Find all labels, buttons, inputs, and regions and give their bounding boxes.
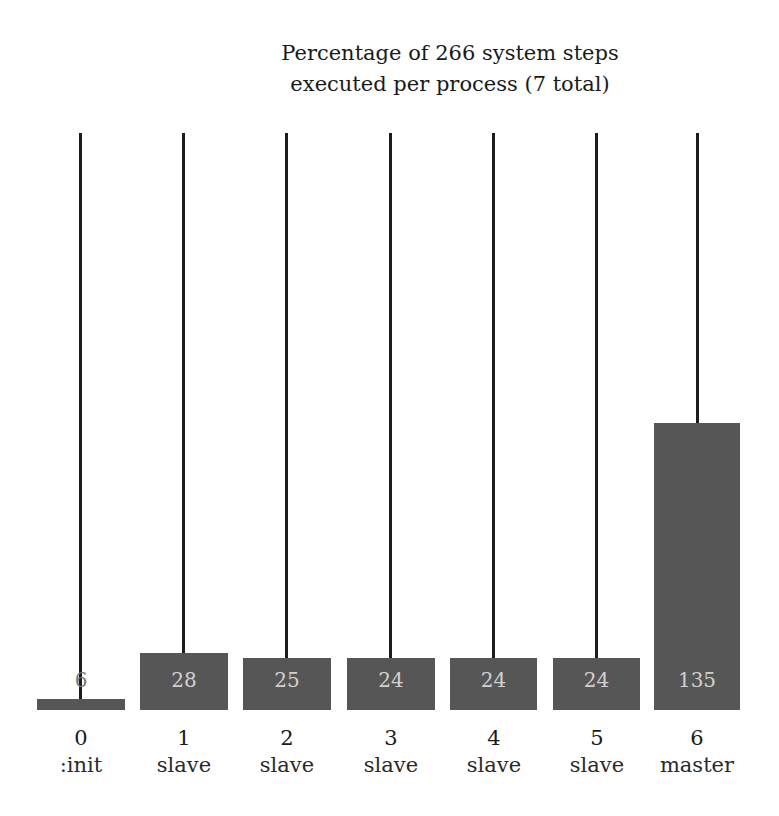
x-axis-label: 4 slave	[434, 725, 554, 779]
stem-line	[389, 133, 392, 658]
bar-value: 6	[37, 668, 125, 692]
process-id: 6	[637, 725, 757, 752]
x-axis-label: 3 slave	[331, 725, 451, 779]
process-role: slave	[227, 752, 347, 779]
process-id: 3	[331, 725, 451, 752]
bar-group-0: 6 0 :init	[37, 0, 125, 816]
bar-value: 24	[450, 668, 537, 692]
bar	[37, 699, 125, 710]
stem-line	[285, 133, 288, 658]
stem-line	[696, 133, 699, 423]
process-id: 2	[227, 725, 347, 752]
stem-line	[492, 133, 495, 658]
x-axis-label: 2 slave	[227, 725, 347, 779]
process-role: slave	[331, 752, 451, 779]
x-axis-label: 0 :init	[21, 725, 141, 779]
process-id: 0	[21, 725, 141, 752]
bar-group-5: 24 5 slave	[553, 0, 640, 816]
bar-group-3: 24 3 slave	[347, 0, 435, 816]
stem-line	[595, 133, 598, 658]
bar-value: 28	[140, 668, 228, 692]
bar-value: 24	[347, 668, 435, 692]
process-id: 4	[434, 725, 554, 752]
bar-value: 24	[553, 668, 640, 692]
bar-value: 135	[654, 668, 740, 692]
stem-line	[182, 133, 185, 653]
process-id: 1	[124, 725, 244, 752]
bar-group-1: 28 1 slave	[140, 0, 228, 816]
process-role: master	[637, 752, 757, 779]
bar-group-4: 24 4 slave	[450, 0, 537, 816]
x-axis-label: 6 master	[637, 725, 757, 779]
stem-line	[79, 133, 82, 699]
bar-group-6: 135 6 master	[654, 0, 740, 816]
process-role: slave	[124, 752, 244, 779]
bar-value: 25	[243, 668, 331, 692]
bar-chart: 6 0 :init 28 1 slave 25 2 slave 24 3 sla…	[0, 0, 779, 816]
bar	[654, 423, 740, 710]
process-role: :init	[21, 752, 141, 779]
x-axis-label: 1 slave	[124, 725, 244, 779]
bar-group-2: 25 2 slave	[243, 0, 331, 816]
process-role: slave	[434, 752, 554, 779]
